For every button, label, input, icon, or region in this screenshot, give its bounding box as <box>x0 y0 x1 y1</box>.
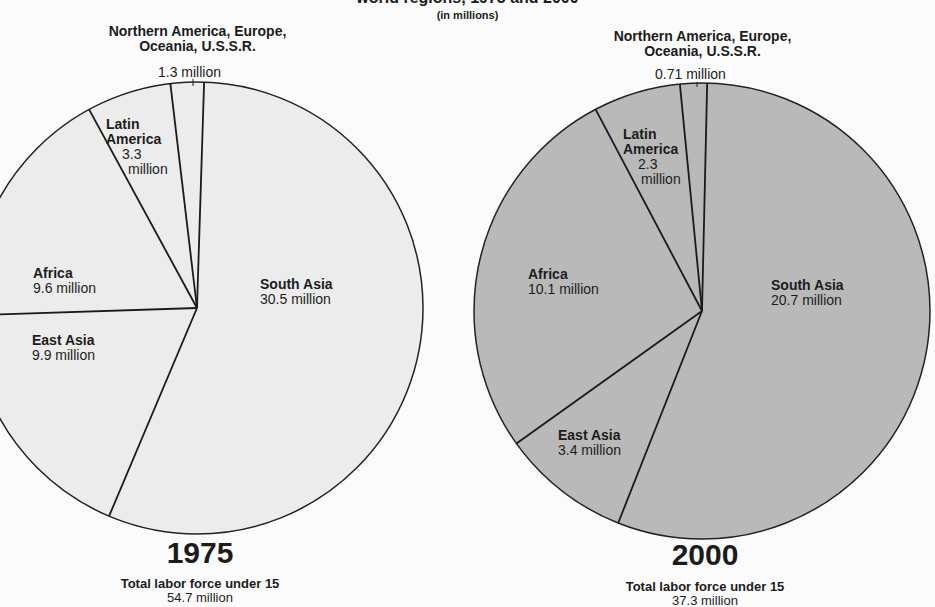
top-label-line1: Northern America, Europe, <box>585 29 820 44</box>
pie-2000-footer: Total labor force under 15 37.3 million <box>565 580 845 607</box>
top-label-line2: Oceania, U.S.S.R. <box>585 44 820 59</box>
pie-1975-year: 1975 <box>100 536 300 570</box>
pie-2000-latin-america-label: Latin America 2.3 million <box>623 127 681 187</box>
pie-2000-africa-label: Africa 10.1 million <box>528 267 599 297</box>
pie-1975-east-asia-label: East Asia 9.9 million <box>32 333 95 363</box>
pie-1975-south-asia-label: South Asia 30.5 million <box>260 277 333 307</box>
pie-2000-east-asia-label: East Asia 3.4 million <box>558 428 621 458</box>
pie-1975-footer: Total labor force under 15 54.7 million <box>60 577 340 605</box>
pie-2000-top-label: Northern America, Europe, Oceania, U.S.S… <box>585 29 820 59</box>
pie-2000-south-asia-label: South Asia 20.7 million <box>771 278 844 308</box>
pie-1975-latin-america-label: Latin America 3.3 million <box>106 117 168 177</box>
pie-2000-nae-value: 0.71 million <box>655 66 726 82</box>
pie-2000-year: 2000 <box>605 538 805 572</box>
pie-1975-africa-label: Africa 9.6 million <box>33 266 96 296</box>
